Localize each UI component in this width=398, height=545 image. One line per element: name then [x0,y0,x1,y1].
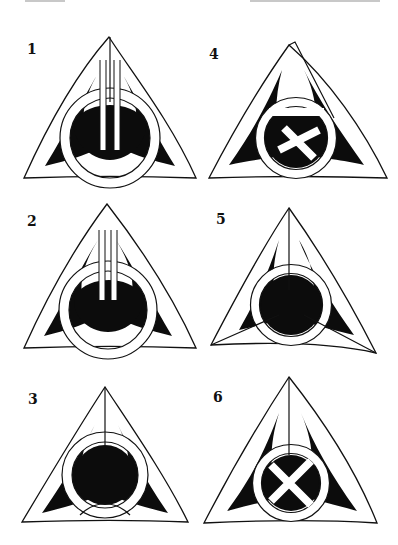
knot-panel-5: 5 [199,190,398,365]
triquetra-knot-5-icon [199,190,398,370]
knot-panel-4: 4 [199,0,398,175]
triquetra-knot-1-icon [0,0,199,190]
triquetra-knot-2-icon [0,190,199,370]
knot-panel-2: 2 [0,190,199,365]
triquetra-knot-6-icon [199,365,398,545]
knot-panel-3: 3 [0,365,199,540]
knot-panel-6: 6 [199,365,398,540]
triquetra-knot-3-icon [0,365,199,545]
knot-panel-1: 1 [0,0,199,175]
triquetra-knot-4-icon [199,0,398,190]
